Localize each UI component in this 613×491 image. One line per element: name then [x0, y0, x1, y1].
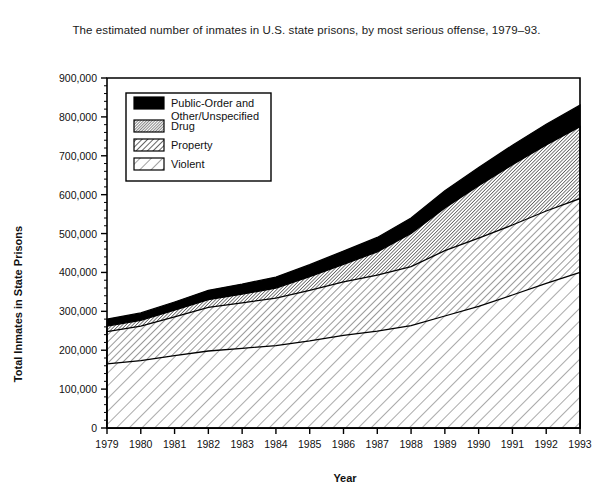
y-axis-ticks [101, 78, 107, 428]
y-tick-label: 600,000 [59, 189, 97, 201]
x-tick-label: 1991 [501, 438, 525, 450]
stacked-area-chart: 0100,000200,000300,000400,000500,000600,… [0, 60, 613, 491]
chart-legend: Public-Order andOther/UnspecifiedDrugPro… [126, 93, 271, 181]
legend-swatch-violent [134, 158, 164, 170]
y-tick-label: 300,000 [59, 305, 97, 317]
y-tick-label: 800,000 [59, 111, 97, 123]
x-tick-label: 1983 [230, 438, 254, 450]
x-tick-label: 1984 [264, 438, 288, 450]
chart-page: The estimated number of inmates in U.S. … [0, 0, 613, 491]
x-tick-label: 1979 [95, 438, 119, 450]
x-tick-label: 1989 [433, 438, 457, 450]
x-tick-label: 1980 [129, 438, 153, 450]
legend-label: Public-Order and [171, 97, 254, 109]
y-tick-label: 900,000 [59, 72, 97, 84]
x-tick-label: 1990 [467, 438, 491, 450]
legend-swatch-drug [134, 120, 164, 132]
y-axis-labels: 0100,000200,000300,000400,000500,000600,… [59, 72, 97, 434]
legend-swatch-property [134, 139, 164, 151]
x-tick-label: 1992 [535, 438, 559, 450]
x-tick-label: 1985 [298, 438, 322, 450]
y-tick-label: 500,000 [59, 228, 97, 240]
legend-label: Property [171, 139, 213, 151]
x-axis-title: Year [333, 472, 357, 484]
x-tick-label: 1986 [332, 438, 356, 450]
x-tick-label: 1988 [399, 438, 423, 450]
legend-swatch-public-order-and [134, 97, 164, 109]
y-tick-label: 200,000 [59, 344, 97, 356]
x-tick-label: 1987 [366, 438, 390, 450]
x-tick-label: 1993 [568, 438, 592, 450]
y-axis-title: Total Inmates in State Prisons [12, 226, 24, 382]
x-axis-ticks [107, 428, 580, 434]
legend-label: Violent [171, 158, 204, 170]
y-tick-label: 700,000 [59, 150, 97, 162]
chart-caption: The estimated number of inmates in U.S. … [0, 24, 613, 36]
legend-label: Drug [171, 120, 195, 132]
x-tick-label: 1982 [197, 438, 221, 450]
y-tick-label: 0 [91, 422, 97, 434]
x-tick-label: 1981 [163, 438, 187, 450]
y-tick-label: 100,000 [59, 383, 97, 395]
x-axis-labels: 1979198019811982198319841985198619871988… [95, 438, 592, 450]
y-tick-label: 400,000 [59, 266, 97, 278]
